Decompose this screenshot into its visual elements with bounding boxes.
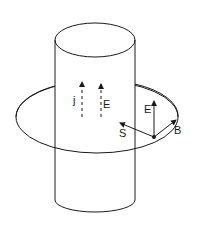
magnetic-field-arrow: [154, 120, 176, 137]
magnetic-field-label: B: [174, 124, 181, 136]
internal-e-field-label: E: [103, 98, 110, 110]
surface-e-field-label: E: [144, 103, 151, 115]
cylinder: [55, 23, 135, 212]
poynting-cylinder-diagram: j E E S B: [0, 0, 198, 229]
current-density-label: j: [72, 94, 75, 106]
poynting-vector-label: S: [119, 127, 126, 139]
